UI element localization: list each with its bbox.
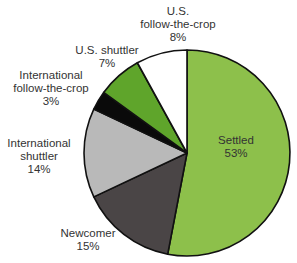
- label-text-2: follow-the-crop: [6, 82, 96, 95]
- label-text: International: [2, 137, 76, 150]
- label-text: International: [6, 69, 96, 82]
- label-text: Newcomer: [48, 227, 128, 240]
- label-us-shuttler: U.S. shuttler 7%: [68, 44, 146, 70]
- label-value: 53%: [206, 147, 266, 160]
- label-text-2: shuttler: [2, 150, 76, 163]
- label-text: Settled: [206, 134, 266, 147]
- label-value: 14%: [2, 163, 76, 176]
- label-value: 3%: [6, 95, 96, 108]
- label-text: U.S. shuttler: [68, 44, 146, 57]
- label-text: U.S.: [128, 5, 228, 18]
- label-newcomer: Newcomer 15%: [48, 227, 128, 253]
- label-text-2: follow-the-crop: [128, 18, 228, 31]
- label-value: 8%: [128, 31, 228, 44]
- label-international-shuttler: International shuttler 14%: [2, 137, 76, 176]
- label-value: 15%: [48, 240, 128, 253]
- label-us-follow-the-crop: U.S. follow-the-crop 8%: [128, 5, 228, 44]
- label-value: 7%: [68, 57, 146, 70]
- label-settled: Settled 53%: [206, 134, 266, 160]
- label-international-follow-the-crop: International follow-the-crop 3%: [6, 69, 96, 108]
